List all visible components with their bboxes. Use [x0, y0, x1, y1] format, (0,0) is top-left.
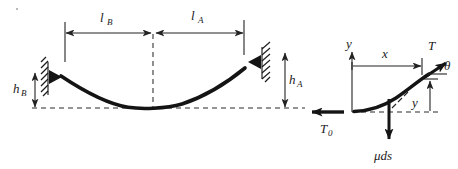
- label-height-hA: h A: [289, 72, 303, 89]
- label-weight: μds: [373, 148, 392, 163]
- support-left: [41, 57, 62, 96]
- label-span-lB-subscript: B: [107, 17, 113, 27]
- label-span-lB-symbol: l: [100, 10, 104, 25]
- label-T0: T 0: [320, 121, 333, 138]
- label-height-hB-symbol: h: [13, 81, 20, 96]
- figure-canvas: l B l A: [0, 0, 458, 169]
- left-diagram-group: l B l A: [13, 8, 305, 108]
- label-y-axis: y: [344, 36, 352, 51]
- label-T0-subscript: 0: [328, 128, 333, 138]
- support-left-hatching: [41, 57, 48, 96]
- label-span-lA-symbol: l: [191, 8, 195, 23]
- label-span-lA: l A: [191, 8, 204, 25]
- support-right: [248, 42, 270, 82]
- tension-T-arrow: [425, 63, 446, 77]
- label-height-hB-subscript: B: [21, 88, 27, 98]
- label-theta: θ: [444, 58, 451, 73]
- label-height-hA-subscript: A: [296, 79, 303, 89]
- label-height-hB: h B: [13, 81, 27, 98]
- label-height-hA-symbol: h: [289, 72, 296, 87]
- support-right-pin-triangle: [248, 55, 261, 69]
- label-span-lA-subscript: A: [197, 15, 204, 25]
- label-x: x: [381, 46, 388, 61]
- right-diagram-group: y x y T θ T 0: [312, 36, 451, 163]
- label-T: T: [428, 38, 436, 53]
- scan-speck: [16, 8, 18, 10]
- figure-root: l B l A: [0, 0, 458, 169]
- label-span-lB: l B: [100, 10, 113, 27]
- label-T0-symbol: T: [320, 121, 328, 136]
- support-right-hatching: [262, 42, 270, 82]
- label-y-coord: y: [410, 95, 418, 110]
